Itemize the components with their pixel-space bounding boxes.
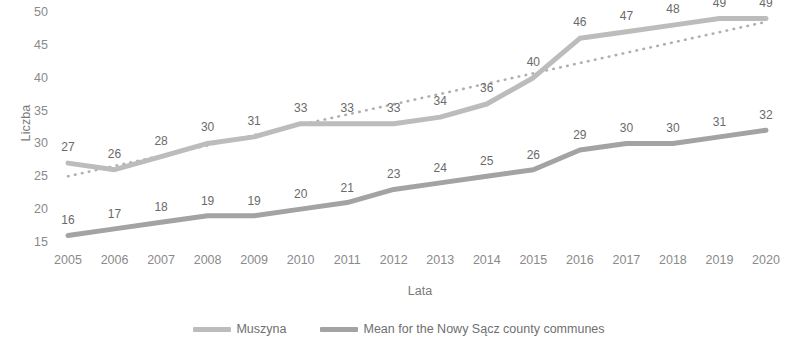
x-axis-tick: 2007: [138, 253, 184, 267]
data-label: 40: [516, 56, 550, 68]
legend-item-muszyna[interactable]: Muszyna: [193, 322, 286, 336]
legend-swatch-mean: [320, 327, 358, 332]
x-axis-tick: 2012: [371, 253, 417, 267]
legend-item-mean[interactable]: Mean for the Nowy Sącz county communes: [320, 322, 604, 336]
data-label: 19: [237, 195, 271, 207]
data-label: 47: [609, 10, 643, 22]
x-axis-tick: 2010: [278, 253, 324, 267]
legend-label-muszyna: Muszyna: [236, 322, 286, 336]
data-label: 31: [702, 116, 736, 128]
data-label: 33: [284, 102, 318, 114]
x-axis-tick: 2008: [185, 253, 231, 267]
data-label: 30: [191, 121, 225, 133]
data-label: 34: [423, 95, 457, 107]
data-label: 27: [51, 141, 85, 153]
x-axis-tick: 2017: [603, 253, 649, 267]
data-label: 49: [702, 0, 736, 9]
x-axis-tick: 2009: [231, 253, 277, 267]
x-axis-tick: 2005: [45, 253, 91, 267]
x-axis-tick: 2016: [557, 253, 603, 267]
data-label: 24: [423, 162, 457, 174]
legend-label-mean: Mean for the Nowy Sącz county communes: [363, 322, 604, 336]
legend-swatch-muszyna: [193, 327, 231, 332]
data-label: 48: [656, 3, 690, 15]
line-chart: Liczba 1520253035404550 2005200620072008…: [0, 0, 798, 345]
data-label: 21: [330, 182, 364, 194]
x-axis-tick: 2015: [510, 253, 556, 267]
data-label: 16: [51, 214, 85, 226]
data-label: 33: [377, 102, 411, 114]
data-label: 23: [377, 168, 411, 180]
data-label: 49: [749, 0, 783, 9]
data-label: 31: [237, 115, 271, 127]
x-axis-tick: 2019: [696, 253, 742, 267]
x-axis-tick: 2013: [417, 253, 463, 267]
data-label: 17: [98, 208, 132, 220]
data-label: 30: [609, 122, 643, 134]
data-label: 26: [98, 148, 132, 160]
data-label: 29: [563, 129, 597, 141]
data-label: 19: [191, 195, 225, 207]
data-label: 26: [516, 149, 550, 161]
data-label: 28: [144, 135, 178, 147]
x-axis-tick: 2006: [92, 253, 138, 267]
data-label: 20: [284, 188, 318, 200]
x-axis-tick: 2018: [650, 253, 696, 267]
data-label: 36: [470, 82, 504, 94]
chart-legend: Muszyna Mean for the Nowy Sącz county co…: [0, 322, 798, 336]
data-label: 18: [144, 201, 178, 213]
data-label: 32: [749, 109, 783, 121]
series-line-muszyna: [68, 19, 766, 170]
data-label: 46: [563, 16, 597, 28]
x-axis-tick: 2020: [743, 253, 789, 267]
x-axis-tick: 2014: [464, 253, 510, 267]
data-label: 33: [330, 102, 364, 114]
x-axis-title: Lata: [370, 284, 470, 298]
data-label: 25: [470, 155, 504, 167]
x-axis-tick: 2011: [324, 253, 370, 267]
data-label: 30: [656, 122, 690, 134]
